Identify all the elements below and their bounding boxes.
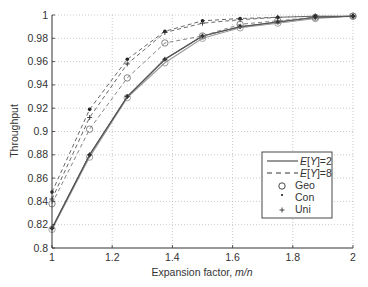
y-tick-label: 0.86 <box>28 172 49 184</box>
y-axis-label: Throughput <box>8 104 20 158</box>
y-tick-label: 0.94 <box>28 78 49 90</box>
x-tick-label: 1.6 <box>225 251 240 263</box>
x-tick-label: 1 <box>49 251 55 263</box>
x-axis-label: Expansion factor, m/n <box>152 266 253 278</box>
legend-label: Uni <box>295 203 311 215</box>
y-tick-label: 0.9 <box>33 125 48 137</box>
legend-label: E[Y]=2 <box>300 155 332 167</box>
legend-label: E[Y]=8 <box>300 167 332 179</box>
y-tick-label: 0.98 <box>28 32 49 44</box>
y-tick-label: 0.84 <box>28 195 49 207</box>
dot-marker-icon <box>88 108 92 112</box>
y-tick-label: 0.92 <box>28 102 49 114</box>
legend-label: Geo <box>295 179 315 191</box>
dot-marker-icon <box>125 57 129 61</box>
x-tick-label: 1.4 <box>165 251 180 263</box>
legend: E[Y]=2E[Y]=8GeoConUni <box>262 152 332 218</box>
throughput-chart: 11.21.41.61.820.80.820.840.860.880.90.92… <box>0 0 368 287</box>
y-tick-label: 0.8 <box>33 242 48 254</box>
circle-marker-icon <box>86 126 92 132</box>
x-tick-label: 1.2 <box>105 251 120 263</box>
y-tick-label: 0.82 <box>28 218 49 230</box>
x-tick-label: 2 <box>350 251 356 263</box>
x-axis-label-italic: m/n <box>235 266 253 278</box>
x-tick-label: 1.8 <box>285 251 300 263</box>
x-axis-label-text: Expansion factor, <box>152 266 235 278</box>
y-tick-label: 0.88 <box>28 148 49 160</box>
y-tick-label: 0.96 <box>28 55 49 67</box>
legend-label: Con <box>295 191 314 203</box>
dot-marker-icon <box>281 194 283 196</box>
y-tick-label: 1 <box>42 9 48 21</box>
